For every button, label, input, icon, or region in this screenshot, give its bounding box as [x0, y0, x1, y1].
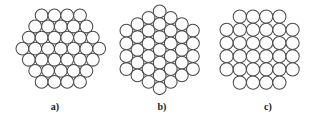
packing-circle — [187, 63, 200, 76]
packing-circle — [220, 36, 233, 49]
packing-circle — [260, 76, 273, 89]
packing-circle — [246, 10, 259, 23]
hexagonal-packing-b-svg — [110, 0, 214, 100]
packing-circle — [246, 76, 259, 89]
packing-circle — [246, 63, 259, 76]
sphere-packing-figure: a) b) c) — [0, 0, 322, 130]
packing-circle — [246, 23, 259, 36]
packing-circle — [233, 50, 246, 63]
packing-circle — [233, 10, 246, 23]
packing-circle — [273, 23, 286, 36]
packing-circle — [273, 36, 286, 49]
packing-circle — [74, 76, 87, 89]
panel-a-label: a) — [0, 101, 110, 113]
packing-circle — [273, 10, 286, 23]
packing-circle — [260, 23, 273, 36]
packing-circle — [246, 50, 259, 63]
packing-circle — [260, 10, 273, 23]
packing-circle — [273, 50, 286, 63]
packing-circle — [233, 63, 246, 76]
packing-circle — [187, 24, 200, 37]
packing-circle — [35, 76, 48, 89]
packing-circle — [286, 36, 299, 49]
panel-b-drawing — [110, 0, 214, 100]
packing-circle — [286, 50, 299, 63]
packing-circle — [187, 50, 200, 63]
packing-circle — [273, 76, 286, 89]
packing-circle — [286, 23, 299, 36]
packing-circle — [260, 63, 273, 76]
panel-a: a) — [0, 0, 110, 130]
packing-circle — [233, 36, 246, 49]
packing-circle — [286, 63, 299, 76]
hexagonal-packing-a-svg — [0, 0, 110, 100]
panel-a-drawing — [0, 0, 110, 100]
packing-circle — [48, 76, 61, 89]
cubic-packing-c-svg — [214, 0, 322, 100]
packing-circle — [220, 63, 233, 76]
packing-circle — [260, 36, 273, 49]
panel-c-label: c) — [214, 101, 322, 113]
panel-b-label: b) — [110, 101, 214, 113]
panel-b: b) — [110, 0, 214, 130]
packing-circle — [220, 50, 233, 63]
packing-circle — [61, 76, 74, 89]
packing-circle — [220, 23, 233, 36]
packing-circle — [260, 50, 273, 63]
panel-c: c) — [214, 0, 322, 130]
packing-circle — [233, 23, 246, 36]
packing-circle — [246, 36, 259, 49]
packing-circle — [233, 76, 246, 89]
panel-c-drawing — [214, 0, 322, 100]
packing-circle — [273, 63, 286, 76]
packing-circle — [187, 37, 200, 50]
